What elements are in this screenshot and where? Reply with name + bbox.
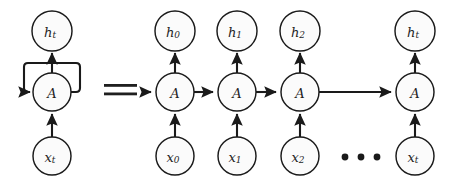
node-label-cell-2: A bbox=[294, 86, 304, 101]
node-cell-2: A bbox=[281, 73, 319, 111]
node-h-t: ht bbox=[395, 11, 435, 51]
node-x-1: x1 bbox=[218, 137, 256, 175]
equals-sign bbox=[104, 84, 137, 95]
ellipsis-dot bbox=[342, 154, 349, 161]
node-cell-1: A bbox=[218, 73, 256, 111]
ellipsis-dot bbox=[358, 154, 365, 161]
timestep-column-0: h0 A x0 bbox=[155, 11, 195, 175]
timestep-column-1: h1 A x1 bbox=[217, 11, 257, 175]
node-label-cell-0: A bbox=[169, 86, 179, 101]
unrolled-rnn-group: h0 A x0 bbox=[143, 11, 435, 175]
ellipsis-dots bbox=[342, 154, 381, 161]
node-cell-t: A bbox=[396, 73, 434, 111]
node-h-2: h2 bbox=[280, 11, 320, 51]
node-a-cell: A bbox=[33, 73, 71, 111]
equals-bar-bottom bbox=[104, 93, 137, 96]
rnn-unrolling-figure: ht A xt bbox=[0, 0, 456, 186]
node-x-t: xt bbox=[396, 137, 434, 175]
timestep-column-2: h2 A x2 bbox=[280, 11, 320, 175]
ellipsis-dot bbox=[374, 154, 381, 161]
node-h-t: ht bbox=[32, 11, 72, 51]
diagram-canvas: ht A xt bbox=[0, 0, 456, 186]
folded-rnn-group: ht A xt bbox=[24, 11, 80, 175]
node-h-1: h1 bbox=[217, 11, 257, 51]
node-x-2: x2 bbox=[281, 137, 319, 175]
equals-bar-top bbox=[104, 84, 137, 87]
node-cell-0: A bbox=[156, 73, 194, 111]
node-label-cell-t: A bbox=[409, 86, 419, 101]
node-x-t: xt bbox=[33, 137, 71, 175]
node-label-cell-1: A bbox=[231, 86, 241, 101]
node-x-0: x0 bbox=[156, 137, 194, 175]
node-label-a-cell: A bbox=[46, 86, 56, 101]
timestep-column-t: ht A xt bbox=[395, 11, 435, 175]
node-h-0: h0 bbox=[155, 11, 195, 51]
